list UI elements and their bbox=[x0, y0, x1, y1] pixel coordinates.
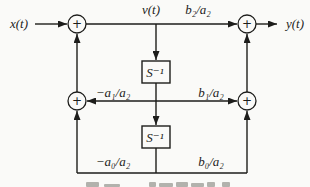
plus-icon: + bbox=[72, 17, 82, 31]
block-diagram: + + + + S⁻¹ S⁻¹ x(t) v(t) y(t) b₂/a₂ −a₁… bbox=[0, 0, 310, 187]
output-signal-label: y(t) bbox=[284, 16, 304, 31]
gain-label-b0-over-a2: b₀/a₂ bbox=[198, 154, 224, 169]
delay-block-1-label: S⁻¹ bbox=[146, 65, 163, 80]
tap-signal-label: v(t) bbox=[142, 2, 160, 17]
plus-icon: + bbox=[72, 94, 82, 108]
cropped-caption-fragments bbox=[86, 182, 230, 187]
input-signal-label: x(t) bbox=[9, 16, 28, 31]
gain-label-neg-a0-over-a2: −a₀/a₂ bbox=[96, 154, 131, 169]
plus-icon: + bbox=[242, 17, 252, 31]
figure-page: + + + + S⁻¹ S⁻¹ x(t) v(t) y(t) b₂/a₂ −a₁… bbox=[0, 0, 310, 187]
gain-label-b1-over-a2: b₁/a₂ bbox=[198, 85, 224, 100]
gain-label-b2-over-a2: b₂/a₂ bbox=[185, 2, 211, 17]
gain-label-neg-a1-over-a2: −a₁/a₂ bbox=[96, 85, 131, 100]
delay-block-2-label: S⁻¹ bbox=[146, 130, 163, 145]
plus-icon: + bbox=[242, 94, 252, 108]
